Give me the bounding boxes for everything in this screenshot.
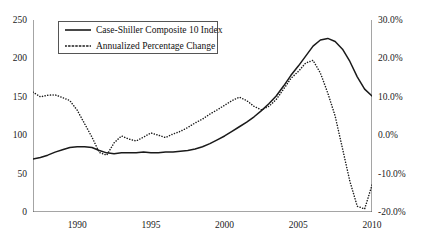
y-right-tick-label: 30.0% [378, 15, 403, 25]
chart-container: 050100150200250 -20.0%-10.0%0.0%10.0%20.… [0, 0, 425, 246]
legend-label-pct-change: Annualized Percentage Change [96, 41, 215, 51]
legend-swatch-solid-line-icon [65, 25, 91, 35]
y-left-tick-label: 150 [0, 92, 27, 102]
x-tick-label: 1990 [57, 220, 97, 230]
x-tick-label: 1995 [131, 220, 171, 230]
legend-label-index: Case-Shiller Composite 10 Index [96, 25, 222, 35]
y-left-tick-label: 50 [0, 169, 27, 179]
y-left-tick-label: 0 [0, 207, 27, 217]
legend-item-index: Case-Shiller Composite 10 Index [59, 22, 217, 38]
x-tick-label: 2000 [205, 220, 245, 230]
chart-legend: Case-Shiller Composite 10 Index Annualiz… [58, 21, 218, 54]
y-left-tick-label: 250 [0, 15, 27, 25]
y-right-tick-label: 0.0% [378, 130, 398, 140]
x-tick-label: 2010 [352, 220, 392, 230]
series-line-index [33, 38, 372, 159]
y-right-tick-label: 10.0% [378, 92, 403, 102]
data-series-layer [33, 38, 372, 209]
x-tick-label: 2005 [278, 220, 318, 230]
y-right-tick-label: -10.0% [378, 169, 406, 179]
legend-swatch-dotted-line-icon [65, 41, 91, 51]
legend-item-pct-change: Annualized Percentage Change [59, 38, 217, 54]
y-left-tick-label: 200 [0, 53, 27, 63]
y-right-tick-label: -20.0% [378, 207, 406, 217]
series-line-pct-change [33, 60, 372, 209]
y-right-tick-label: 20.0% [378, 53, 403, 63]
y-left-tick-label: 100 [0, 130, 27, 140]
